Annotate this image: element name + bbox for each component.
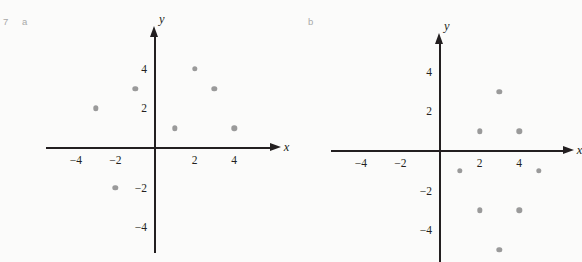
data-point <box>477 208 482 213</box>
x-tick-label: 2 <box>477 157 483 169</box>
scatter-plot-b: xy−4−22442−2−4 <box>283 0 567 260</box>
y-tick-label: −2 <box>410 185 432 197</box>
data-point <box>477 128 482 133</box>
x-tick-label: 4 <box>516 157 522 169</box>
data-point <box>497 89 502 94</box>
data-point <box>231 125 236 130</box>
data-point <box>536 168 541 173</box>
x-axis-arrow-icon <box>563 146 574 154</box>
x-axis-arrow-icon <box>270 143 281 151</box>
data-point <box>516 128 521 133</box>
data-point <box>457 168 462 173</box>
data-point <box>516 208 521 213</box>
x-tick-label: 2 <box>192 154 198 166</box>
x-axis-line <box>46 147 270 148</box>
x-axis-line <box>331 150 563 151</box>
x-tick-label: −4 <box>355 157 367 169</box>
y-tick-label: 2 <box>125 102 147 114</box>
data-point <box>93 106 98 111</box>
data-point <box>497 247 502 252</box>
y-axis-arrow-icon <box>150 26 158 37</box>
y-tick-label: −4 <box>410 224 432 236</box>
y-tick-label: 4 <box>125 63 147 75</box>
y-axis-label: y <box>444 19 450 34</box>
x-axis-label: x <box>577 143 582 158</box>
y-tick-label: −2 <box>125 182 147 194</box>
y-axis-line <box>439 44 440 262</box>
x-tick-label: −2 <box>109 154 121 166</box>
data-point <box>113 185 118 190</box>
data-point <box>212 86 217 91</box>
x-tick-label: 4 <box>231 154 237 166</box>
y-tick-label: 4 <box>410 66 432 78</box>
data-point <box>192 66 197 71</box>
y-axis-arrow-icon <box>435 33 443 44</box>
x-tick-label: −2 <box>394 157 406 169</box>
y-tick-label: 2 <box>410 105 432 117</box>
scatter-plot-a: xy−4−22442−2−4 <box>0 0 283 260</box>
data-point <box>172 125 177 130</box>
y-axis-line <box>154 37 155 253</box>
data-point <box>132 86 137 91</box>
y-tick-label: −4 <box>125 221 147 233</box>
x-tick-label: −4 <box>70 154 82 166</box>
y-axis-label: y <box>159 12 165 27</box>
